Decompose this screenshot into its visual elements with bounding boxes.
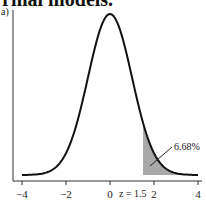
x-tick-label: −2 (60, 188, 72, 200)
cutoff-label: z = 1.5 (119, 188, 147, 199)
density-curve (22, 14, 198, 175)
normal-curve-chart: −4−2024 6.68% z = 1.5 (0, 0, 206, 206)
x-tick-label: 4 (195, 188, 201, 200)
tail-percentage-label: 6.68% (174, 141, 200, 152)
x-axis-ticks: −4−2024 (16, 181, 201, 200)
x-tick-label: 2 (151, 188, 157, 200)
x-tick-label: −4 (16, 188, 28, 200)
x-tick-label: 0 (107, 188, 113, 200)
